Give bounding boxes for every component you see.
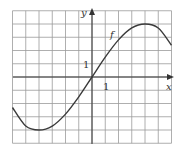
- x-axis-label: x: [166, 81, 172, 92]
- y-axis-arrow-icon: [89, 8, 95, 15]
- x-tick-label: 1: [103, 81, 109, 92]
- function-graph: y x 1 1 f: [0, 0, 182, 149]
- y-tick-label: 1: [83, 59, 89, 70]
- x-axis-arrow-icon: [167, 74, 174, 80]
- y-axis-label: y: [80, 7, 87, 18]
- function-label: f: [109, 29, 116, 40]
